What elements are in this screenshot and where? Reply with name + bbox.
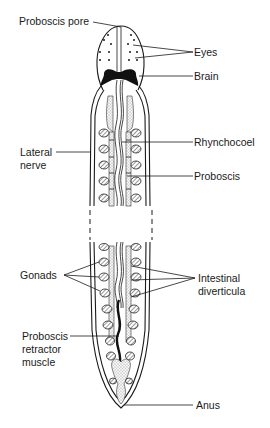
body-lower [90, 242, 150, 408]
body-break [90, 210, 152, 240]
label-lateral-nerve-line2: nerve [20, 159, 46, 171]
label-retractor-line1: Proboscis [22, 330, 68, 342]
label-retractor-line3: muscle [22, 356, 55, 368]
label-gonads: Gonads [20, 269, 57, 281]
body-upper [90, 80, 150, 206]
label-eyes: Eyes [194, 46, 217, 58]
nemertean-diagram: Proboscis pore Eyes Brain Rhynchocoel La… [0, 0, 270, 428]
label-intestinal-line2: diverticula [198, 285, 245, 297]
label-rhynchocoel: Rhynchocoel [194, 136, 255, 148]
label-anus: Anus [196, 399, 220, 411]
label-retractor-line2: retractor [22, 343, 62, 355]
brain [101, 69, 138, 86]
label-brain: Brain [194, 70, 219, 82]
label-lateral-nerve-line1: Lateral [20, 146, 52, 158]
label-proboscis: Proboscis [194, 170, 240, 182]
eyes [99, 34, 138, 61]
label-intestinal-line1: Intestinal [198, 272, 240, 284]
label-proboscis-pore: Proboscis pore [19, 15, 89, 27]
